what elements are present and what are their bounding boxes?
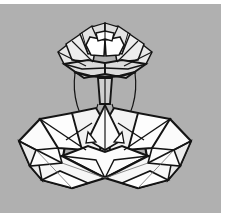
artboard: Origami Lotus Flower Crest folded-paper … (0, 0, 229, 224)
origami-lotus-figure (0, 0, 229, 224)
drawing-canvas (0, 0, 229, 224)
lower-blossom-group (19, 105, 191, 188)
